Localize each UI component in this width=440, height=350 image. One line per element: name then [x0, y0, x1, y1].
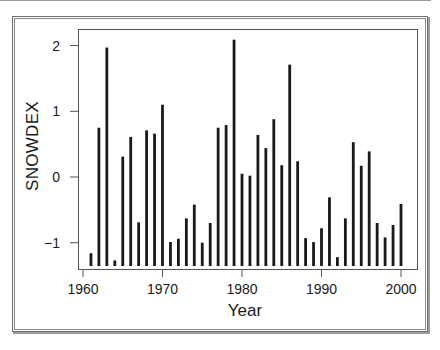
- bar-1990: [320, 228, 323, 266]
- bar-1998: [384, 237, 387, 266]
- bar-1978: [225, 125, 228, 266]
- bar-1986: [288, 65, 291, 266]
- bar-1993: [344, 218, 347, 266]
- bar-1988: [304, 238, 307, 266]
- bar-1964: [113, 260, 116, 266]
- bar-1997: [376, 223, 379, 266]
- y-tick-label: −1: [36, 236, 60, 250]
- bar-1992: [336, 257, 339, 266]
- bar-1975: [201, 243, 204, 266]
- bar-1994: [352, 142, 355, 266]
- bar-1974: [193, 205, 196, 266]
- bar-1996: [368, 151, 371, 266]
- y-axis-title: SNOWDEX: [23, 101, 43, 191]
- bar-1977: [217, 128, 220, 266]
- y-tick-label: 2: [36, 39, 60, 53]
- bar-1999: [392, 225, 395, 266]
- x-tick-label: 1970: [143, 282, 183, 296]
- bar-1965: [121, 157, 124, 266]
- bar-1976: [209, 223, 212, 266]
- bar-1984: [272, 119, 275, 266]
- bar-1970: [161, 105, 164, 266]
- bar-1969: [153, 134, 156, 266]
- bar-1979: [233, 40, 236, 266]
- x-tick-label: 1990: [302, 282, 342, 296]
- x-tick-label: 1960: [63, 282, 103, 296]
- bar-1991: [328, 197, 331, 266]
- bar-1967: [137, 222, 140, 266]
- bar-1995: [360, 166, 363, 266]
- bar-1982: [257, 135, 260, 266]
- bar-1980: [241, 174, 244, 266]
- bar-1966: [129, 137, 132, 266]
- x-tick-label: 2000: [381, 282, 421, 296]
- bar-2000: [400, 204, 403, 266]
- bar-1968: [145, 130, 148, 266]
- bar-1961: [90, 253, 93, 266]
- bar-1971: [169, 242, 172, 266]
- x-tick-label: 1980: [222, 282, 262, 296]
- bar-1981: [249, 176, 252, 266]
- bar-1987: [296, 161, 299, 266]
- bar-1989: [312, 242, 315, 266]
- x-axis-title: Year: [210, 301, 280, 321]
- bar-1983: [264, 148, 267, 266]
- bar-1962: [98, 128, 101, 266]
- bar-1985: [280, 165, 283, 266]
- bar-1973: [185, 218, 188, 266]
- bar-1972: [177, 239, 180, 266]
- bar-1963: [105, 48, 108, 266]
- bar-series: [0, 0, 440, 350]
